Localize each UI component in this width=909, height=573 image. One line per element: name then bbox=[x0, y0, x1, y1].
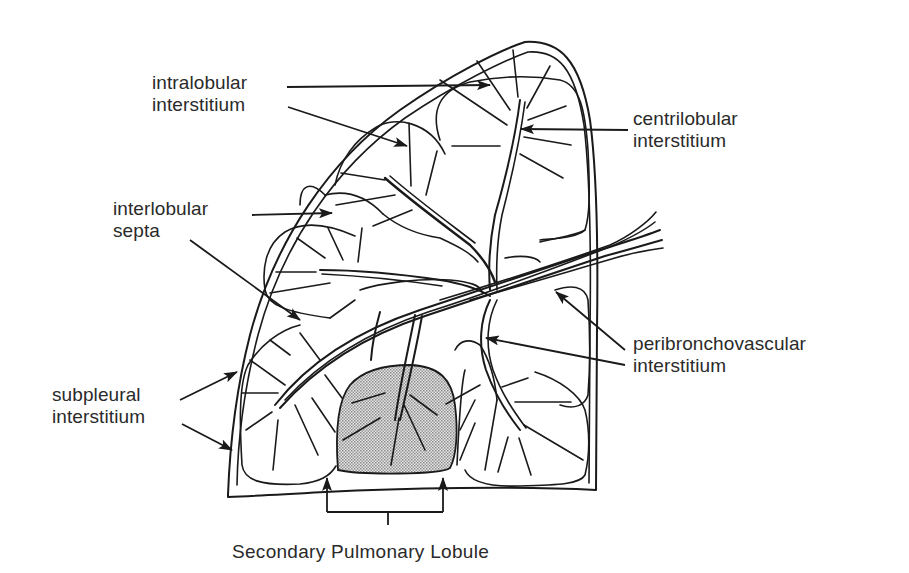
label-line-2: interstitium bbox=[633, 130, 738, 152]
label-line-1: subpleural bbox=[52, 384, 145, 406]
lobule-bracket bbox=[327, 478, 443, 525]
label-line-2: interstitium bbox=[633, 355, 806, 377]
lung-interstitium-diagram: intralobular interstitium centrilobular … bbox=[0, 0, 909, 573]
diagram-drawing bbox=[0, 0, 909, 573]
label-peribronchovascular-interstitium: peribronchovascular interstitium bbox=[633, 333, 806, 377]
label-line-1: intralobular bbox=[152, 72, 247, 94]
label-line-1: interlobular bbox=[113, 198, 208, 220]
label-interlobular-septa: interlobular septa bbox=[113, 198, 208, 242]
highlighted-lobule bbox=[337, 365, 457, 474]
label-line-1: peribronchovascular bbox=[633, 333, 806, 355]
label-centrilobular-interstitium: centrilobular interstitium bbox=[633, 108, 738, 152]
label-intralobular-interstitium: intralobular interstitium bbox=[152, 72, 247, 116]
label-line-2: septa bbox=[113, 220, 208, 242]
bronchovascular-bundle bbox=[275, 100, 663, 430]
caption-secondary-pulmonary-lobule: Secondary Pulmonary Lobule bbox=[232, 541, 489, 563]
label-line-2: interstitium bbox=[52, 406, 145, 428]
label-line-2: interstitium bbox=[152, 94, 247, 116]
label-line-1: centrilobular bbox=[633, 108, 738, 130]
label-subpleural-interstitium: subpleural interstitium bbox=[52, 384, 145, 428]
